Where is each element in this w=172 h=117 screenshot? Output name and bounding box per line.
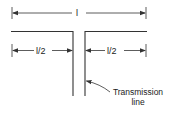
caption-line-1: Transmission [110,87,166,97]
total-length-dimension [12,7,146,19]
caption-line-2: line [110,97,166,107]
transmission-line-leader [87,81,111,92]
left-half-label: l/2 [36,46,46,56]
total-length-label: l [76,8,78,18]
transmission-line-caption: Transmission line [110,87,166,107]
left-dipole-arm [11,32,73,97]
right-half-label: l/2 [107,46,117,56]
